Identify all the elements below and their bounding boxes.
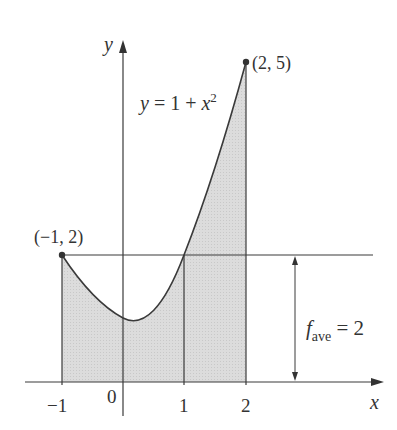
fave-arrow-down-icon [292, 372, 298, 381]
fave-arrow-up-icon [292, 256, 298, 265]
point-2-5 [243, 59, 249, 65]
y-axis-arrow-icon [119, 40, 127, 53]
tick-label-1: 1 [179, 395, 189, 416]
point-neg1-2 [59, 252, 65, 258]
x-axis-label: x [369, 391, 379, 413]
function-label: y = 1 + x2 [138, 90, 217, 115]
y-axis-label: y [102, 33, 113, 56]
fave-label: fave = 2 [306, 316, 364, 344]
tick-label-0: 0 [107, 386, 117, 407]
tick-label-neg1: −1 [47, 395, 67, 416]
x-axis-arrow-icon [371, 378, 384, 386]
tick-label-2: 2 [241, 395, 251, 416]
point-label-2-5: (2, 5) [252, 53, 291, 74]
point-label-neg1-2: (−1, 2) [34, 227, 83, 248]
average-value-diagram: y x y = 1 + x2 (2, 5) (−1, 2) fave = 2 −… [0, 0, 397, 430]
